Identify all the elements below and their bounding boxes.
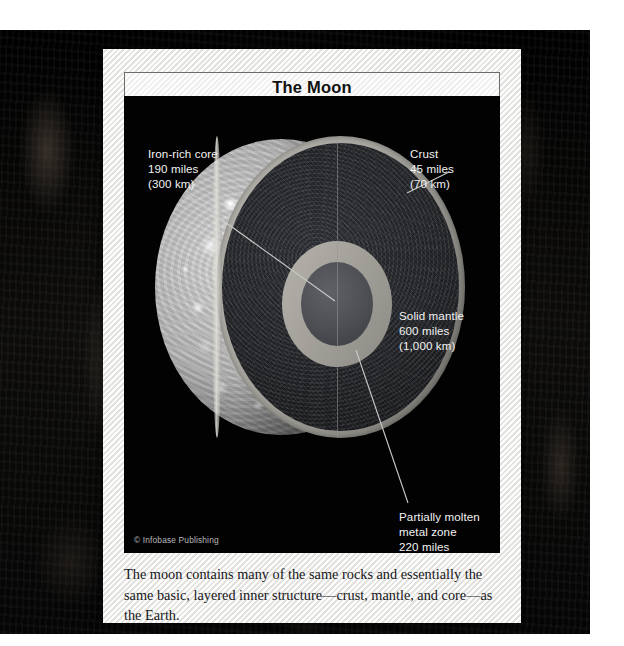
copyright-notice: © Infobase Publishing: [134, 535, 219, 545]
figure-card: The Moon Iron-rich core 190 miles (300 k…: [103, 49, 521, 623]
page-margin-top: [0, 0, 624, 30]
figure-caption: The moon contains many of the same rocks…: [124, 564, 504, 626]
label-solid-mantle: Solid mantle 600 miles (1,000 km): [399, 308, 464, 354]
page-margin-right: [590, 0, 624, 646]
label-iron-rich-core: Iron-rich core 190 miles (300 km): [148, 146, 218, 192]
page-title: The Moon: [272, 78, 352, 97]
page-margin-bottom: [0, 634, 624, 646]
illustration-panel: Iron-rich core 190 miles (300 km) Crust …: [124, 96, 500, 553]
label-partially-molten-metal-zone: Partially molten metal zone 220 miles (3…: [399, 509, 480, 553]
label-crust: Crust 45 miles (70 km): [410, 146, 454, 192]
cutaway-center-line: [337, 138, 338, 438]
